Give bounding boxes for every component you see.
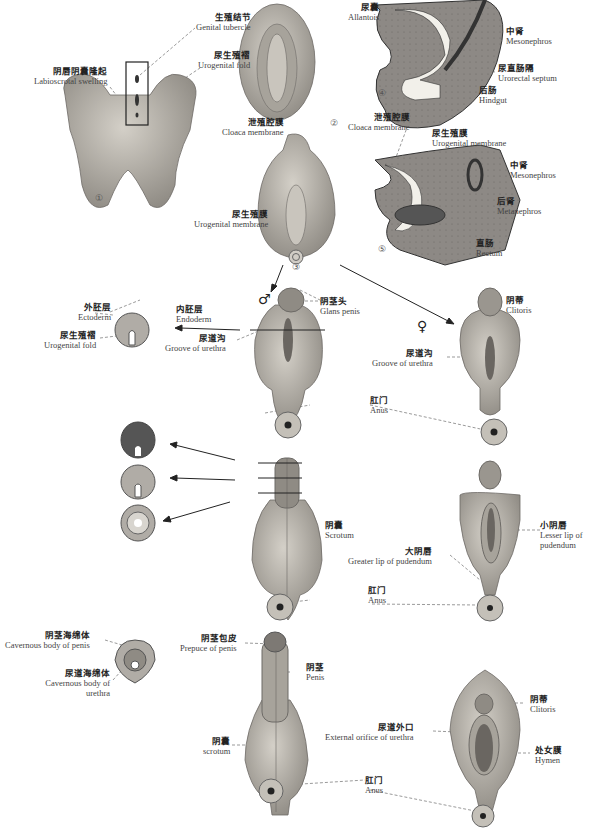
- male-stage-2: [252, 458, 322, 620]
- label-metanephros: 后肾Metanephros: [497, 196, 541, 216]
- label-mesonephros-5: 中肾Mesonephros: [510, 160, 556, 180]
- female-stage-2: [460, 461, 520, 621]
- label-anus-3: 肛门Anus: [365, 775, 383, 795]
- male-stage-1: [250, 288, 325, 438]
- label-urogenital-fold-section: 尿生殖褶Urogenital fold: [44, 330, 96, 350]
- label-ectoderm: 外胚层Ectoderm: [78, 302, 111, 322]
- label-clitoris-1: 阴蒂Clitoris: [506, 295, 532, 315]
- anatomy-illustration: [0, 0, 595, 840]
- label-scrotum-3: 阴囊scrotum: [203, 736, 230, 756]
- label-penis: 阴茎Penis: [306, 662, 324, 682]
- label-groove-urethra-female: 尿道沟Groove of urethra: [372, 348, 433, 368]
- label-cavernous-body-urethra: 尿道海绵体Cavernous body of urethra: [35, 668, 110, 698]
- cross-section-1: [115, 313, 149, 347]
- label-labioscrotal-swelling: 阴唇阴囊隆起Labioscrotal swelling: [34, 66, 107, 86]
- label-scrotum-2: 阴囊Scrotum: [325, 520, 354, 540]
- stage-number-5: ⑤: [378, 244, 386, 254]
- female-stage-3: [450, 670, 520, 827]
- label-hymen: 处女膜Hymen: [535, 745, 562, 765]
- label-anus-2: 肛门Anus: [368, 585, 386, 605]
- label-prepuce: 阴茎包皮Prepuce of penis: [180, 633, 237, 653]
- label-cloaca-membrane-4: 泄殖腔膜Cloaca membrane: [348, 112, 410, 132]
- label-endoderm: 内胚层Endoderm: [176, 304, 211, 324]
- stage-number-1: ①: [95, 193, 103, 203]
- label-genital-tubercle: 生殖结节Genital tubercle: [196, 12, 251, 32]
- stage-number-4: ④: [378, 88, 386, 98]
- label-external-orifice: 尿道外口External orifice of urethra: [325, 722, 414, 742]
- stage-number-2: ②: [330, 118, 338, 128]
- label-cavernous-body-penis: 阴茎海绵体Cavernous body of penis: [5, 630, 90, 650]
- label-urorectal-septum: 尿直肠隔Urorectal septum: [498, 63, 557, 83]
- label-greater-lip: 大阴唇Greater lip of pudendum: [348, 546, 432, 566]
- label-rectum: 直肠Rectum: [476, 238, 502, 258]
- label-glans-penis: 阴茎头Glans penis: [320, 296, 360, 316]
- embryo-stage-1: [64, 74, 196, 207]
- label-cloaca-membrane-2: 泄殖腔膜Cloaca membrane: [222, 117, 284, 137]
- label-clitoris-3: 阴蒂Clitoris: [530, 694, 556, 714]
- label-lesser-lip: 小阴唇Lesser lip of pudendum: [540, 520, 595, 550]
- label-urogenital-fold: 尿生殖褶Urogenital fold: [198, 50, 250, 70]
- label-groove-urethra-male: 尿道沟Groove of urethra: [165, 333, 226, 353]
- label-mesonephros-4: 中肾Mesonephros: [506, 26, 552, 46]
- male-symbol-icon: ♂: [258, 291, 271, 307]
- male-stage-3: [245, 632, 308, 815]
- label-anus-1: 肛门Anus: [370, 395, 388, 415]
- cross-section-penis: [115, 640, 155, 683]
- female-symbol-icon: ♀: [417, 318, 427, 334]
- label-urogenital-membrane-3: 尿生殖膜Urogenital membrane: [194, 209, 268, 229]
- stage-number-3: ③: [292, 262, 300, 272]
- label-allantois: 尿囊Allantois: [348, 2, 379, 22]
- label-urogenital-membrane-5: 尿生殖膜Urogenital membrane: [432, 128, 506, 148]
- label-hindgut: 后肠Hindgut: [479, 85, 507, 105]
